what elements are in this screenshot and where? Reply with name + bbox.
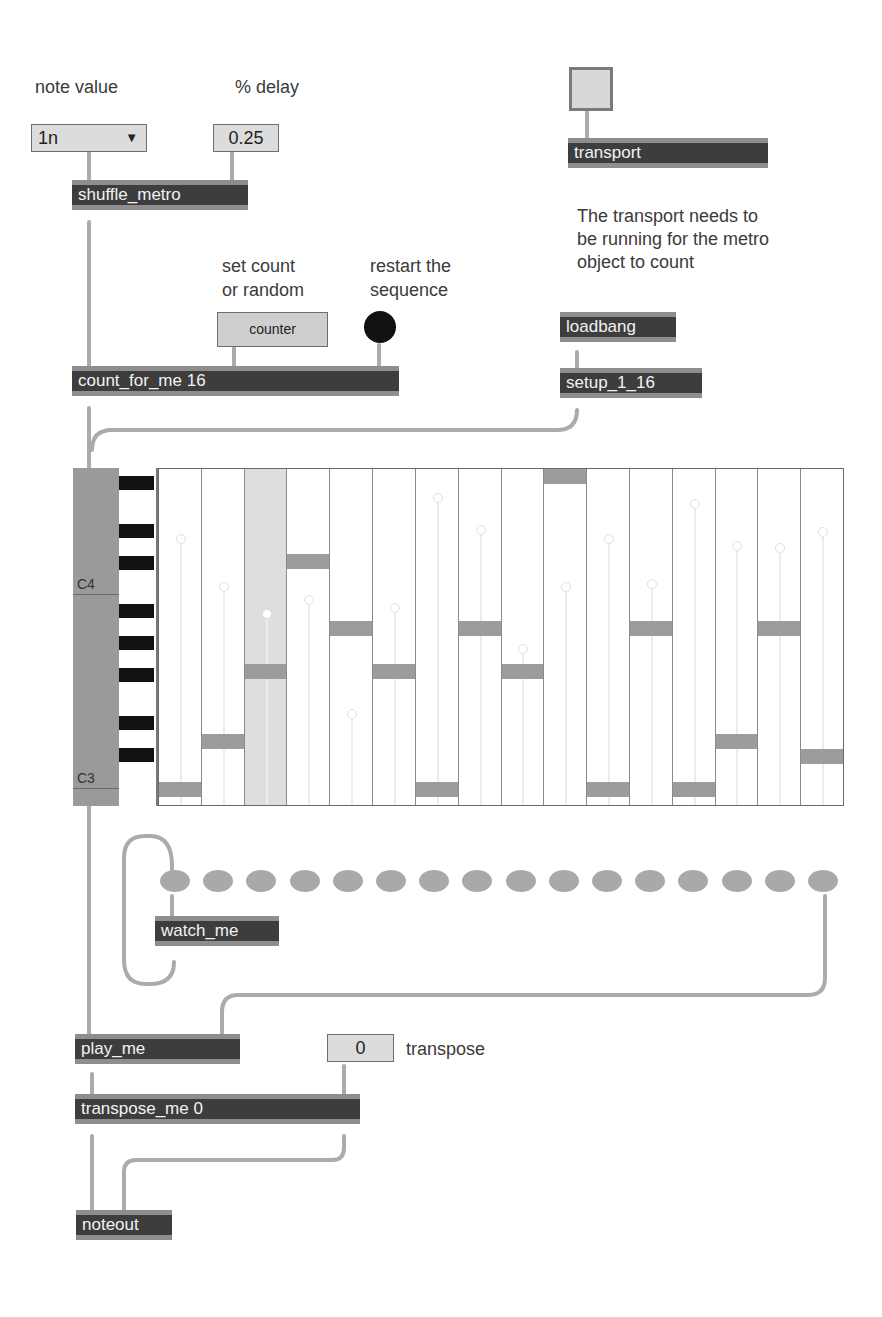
step-led [419,870,449,892]
step-column[interactable] [373,469,416,805]
note-value-menu[interactable]: 1n ▼ [31,124,147,152]
transpose-me-label: transpose_me 0 [81,1099,360,1119]
watch-me-object[interactable]: watch_me [155,916,279,946]
piano-black-key[interactable] [119,716,154,730]
ghost-slider-line [308,605,310,805]
step-column[interactable] [758,469,801,805]
step-note-bar[interactable] [673,782,715,797]
delay-number-box[interactable]: 0.25 [213,124,279,152]
loadbang-object[interactable]: loadbang [560,312,676,342]
step-note-bar[interactable] [202,734,244,749]
ghost-slider-knob [433,493,443,503]
step-led [376,870,406,892]
count-for-me-label: count_for_me 16 [78,371,399,391]
step-column[interactable] [502,469,545,805]
step-column[interactable] [716,469,759,805]
piano-black-key[interactable] [119,524,154,538]
play-me-label: play_me [81,1039,240,1059]
restart-bang[interactable] [364,311,396,343]
step-column[interactable] [544,469,587,805]
step-column[interactable] [801,469,843,805]
ghost-slider-knob [690,499,700,509]
step-note-bar[interactable] [587,782,629,797]
ghost-slider-knob [262,609,272,619]
shuffle-metro-label: shuffle_metro [78,185,248,205]
noteout-object[interactable]: noteout [76,1210,172,1240]
step-column[interactable] [287,469,330,805]
ghost-slider-line [180,544,182,805]
step-column[interactable] [630,469,673,805]
transpose-number-box[interactable]: 0 [327,1034,394,1062]
step-sequencer-grid[interactable] [158,468,844,806]
transport-toggle[interactable] [569,67,613,111]
step-column[interactable] [459,469,502,805]
step-led [765,870,795,892]
ghost-slider-line [266,619,268,805]
step-led [549,870,579,892]
ghost-slider-line [608,544,610,805]
piano-black-key[interactable] [119,636,154,650]
play-me-object[interactable]: play_me [75,1034,240,1064]
transport-object[interactable]: transport [568,138,768,168]
transport-label: transport [574,143,768,163]
step-led [808,870,838,892]
step-note-bar[interactable] [287,554,329,569]
ghost-slider-knob [561,582,571,592]
step-note-bar[interactable] [502,664,544,679]
step-note-bar[interactable] [716,734,758,749]
ghost-slider-line [351,719,353,805]
step-led [635,870,665,892]
step-column[interactable] [416,469,459,805]
ghost-slider-knob [476,525,486,535]
step-led [203,870,233,892]
piano-black-key[interactable] [119,476,154,490]
step-note-bar[interactable] [544,469,586,484]
count-for-me-object[interactable]: count_for_me 16 [72,366,399,396]
step-column[interactable] [202,469,245,805]
ghost-slider-line [822,537,824,805]
step-note-bar[interactable] [630,621,672,636]
step-column[interactable] [587,469,630,805]
step-column[interactable] [245,469,288,805]
step-note-bar[interactable] [373,664,415,679]
setup-label: setup_1_16 [566,373,702,393]
step-note-bar[interactable] [459,621,501,636]
ghost-slider-knob [176,534,186,544]
step-note-bar[interactable] [758,621,800,636]
step-led [722,870,752,892]
ghost-slider-knob [219,582,229,592]
ghost-slider-knob [732,541,742,551]
loadbang-label: loadbang [566,317,676,337]
step-led [592,870,622,892]
step-note-bar[interactable] [330,621,372,636]
step-note-bar[interactable] [159,782,201,797]
ghost-slider-line [480,535,482,805]
step-note-bar[interactable] [801,749,843,764]
piano-black-key[interactable] [119,668,154,682]
step-led-row [160,870,840,894]
c3-label: C3 [77,770,95,786]
ghost-slider-line [694,509,696,805]
piano-black-key[interactable] [119,748,154,762]
shuffle-metro-object[interactable]: shuffle_metro [72,180,248,210]
transpose-me-object[interactable]: transpose_me 0 [75,1094,360,1124]
percent-delay-label: % delay [235,76,299,98]
step-led [506,870,536,892]
ghost-slider-knob [390,603,400,613]
piano-keyboard[interactable] [119,468,158,806]
setup-object[interactable]: setup_1_16 [560,368,702,398]
step-column[interactable] [673,469,716,805]
step-column[interactable] [159,469,202,805]
step-column[interactable] [330,469,373,805]
step-note-bar[interactable] [416,782,458,797]
piano-black-key[interactable] [119,604,154,618]
ghost-slider-knob [647,579,657,589]
piano-roll-range-strip[interactable]: C4 C3 [73,468,119,806]
counter-message[interactable]: counter [217,312,328,347]
step-note-bar[interactable] [245,664,287,679]
ghost-slider-line [736,551,738,805]
ghost-slider-line [437,503,439,805]
transport-note: The transport needs to be running for th… [577,205,769,274]
restart-label: restart the sequence [370,254,451,302]
piano-black-key[interactable] [119,556,154,570]
